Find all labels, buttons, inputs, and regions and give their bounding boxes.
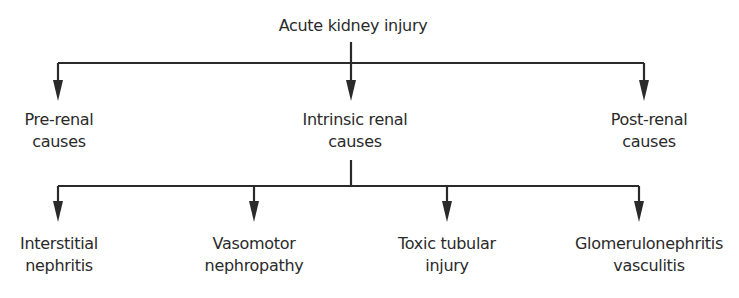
arrow-down-icon xyxy=(249,201,259,222)
node-post-renal: Post-renal causes xyxy=(611,109,688,153)
diagram-canvas: Acute kidney injury Pre-renal causes Int… xyxy=(0,0,739,298)
node-label-line1: Intrinsic renal xyxy=(303,109,408,131)
node-label-line1: Glomerulonephritis xyxy=(575,233,723,255)
node-label-line2: vasculitis xyxy=(575,255,723,277)
node-vasomotor-nephropathy: Vasomotor nephropathy xyxy=(205,233,304,277)
root-node: Acute kidney injury xyxy=(279,15,428,37)
node-label-line1: Pre-renal xyxy=(25,109,94,131)
node-label-line1: Post-renal xyxy=(611,109,688,131)
node-label-line1: Toxic tubular xyxy=(398,233,496,255)
node-label-line2: causes xyxy=(303,131,408,153)
arrow-down-icon xyxy=(634,201,644,222)
node-intrinsic-renal: Intrinsic renal causes xyxy=(303,109,408,153)
arrow-down-icon xyxy=(346,80,356,101)
arrow-down-icon xyxy=(53,201,63,222)
node-label-line2: nephropathy xyxy=(205,255,304,277)
arrow-down-icon xyxy=(639,80,649,101)
node-interstitial-nephritis: Interstitial nephritis xyxy=(20,233,98,277)
node-toxic-tubular-injury: Toxic tubular injury xyxy=(398,233,496,277)
node-label-line2: nephritis xyxy=(20,255,98,277)
root-label: Acute kidney injury xyxy=(279,15,428,37)
node-label-line1: Vasomotor xyxy=(205,233,304,255)
arrow-down-icon xyxy=(442,201,452,222)
node-label-line2: causes xyxy=(25,131,94,153)
node-pre-renal: Pre-renal causes xyxy=(25,109,94,153)
arrow-down-icon xyxy=(53,80,63,101)
node-label-line1: Interstitial xyxy=(20,233,98,255)
node-glomerulonephritis-vasculitis: Glomerulonephritis vasculitis xyxy=(575,233,723,277)
node-label-line2: causes xyxy=(611,131,688,153)
node-label-line2: injury xyxy=(398,255,496,277)
